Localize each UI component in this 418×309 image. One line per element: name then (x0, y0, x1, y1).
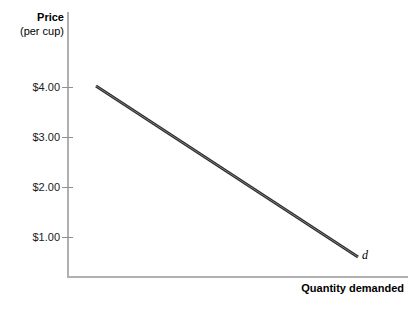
y-tick-1: $1.00 (0, 232, 60, 243)
y-tick-4: $4.00 (0, 82, 60, 93)
y-tick-3: $3.00 (0, 132, 60, 143)
y-tick-label-2: $2.00 (2, 182, 60, 193)
y-tick-mark-1 (62, 237, 73, 238)
y-tick-mark-2 (62, 187, 73, 188)
demand-curve-line-highlight (96, 86, 358, 257)
y-tick-label-4: $4.00 (2, 82, 60, 93)
y-axis-line (67, 12, 69, 278)
y-tick-mark-4 (62, 87, 73, 88)
demand-curve-line (96, 86, 358, 257)
y-tick-label-3: $3.00 (2, 132, 60, 143)
x-axis-title: Quantity demanded (240, 282, 404, 294)
x-axis-line (67, 276, 408, 278)
demand-curve-label: d (362, 248, 368, 263)
y-axis-title-main: Price (0, 10, 64, 24)
demand-curve-chart: Price (per cup) $4.00 $3.00 $2.00 $1.00 … (0, 0, 418, 309)
y-tick-2: $2.00 (0, 182, 60, 193)
demand-curve-plot-area (0, 0, 418, 309)
y-axis-title: Price (per cup) (0, 10, 64, 38)
y-tick-mark-3 (62, 137, 73, 138)
y-axis-title-sub: (per cup) (0, 24, 64, 38)
y-tick-label-1: $1.00 (2, 232, 60, 243)
